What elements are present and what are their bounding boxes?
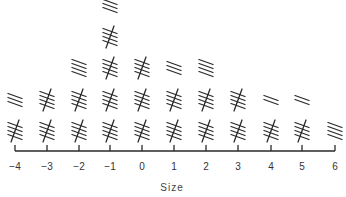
- x-axis-title: Size: [160, 182, 183, 193]
- tally-column--1: [103, 0, 117, 142]
- x-tick-label: 6: [332, 161, 338, 172]
- tally-column--2: [72, 60, 86, 143]
- x-tick-label: 5: [299, 161, 305, 172]
- tally-column-0: [135, 57, 149, 142]
- tally-chart: −4−3−2−10123456 Size: [0, 0, 346, 197]
- x-tick-label: 3: [235, 161, 241, 172]
- x-tick-label: 1: [171, 161, 177, 172]
- tally-column-2: [199, 60, 213, 143]
- tally-column-1: [167, 62, 181, 143]
- tally-column-4: [264, 96, 278, 143]
- tally-column-6: [328, 123, 342, 140]
- x-tick-label: −1: [104, 161, 115, 172]
- x-tick-label: −4: [9, 161, 20, 172]
- tally-column-5: [295, 96, 309, 143]
- x-tick-label: 4: [268, 161, 274, 172]
- tally-column-3: [231, 89, 245, 142]
- x-tick-label: −2: [73, 161, 84, 172]
- x-tick-label: 0: [139, 161, 145, 172]
- x-tick-label: −3: [41, 161, 52, 172]
- x-tick-label: 2: [203, 161, 209, 172]
- tally-column--4: [8, 94, 22, 143]
- tally-column--3: [40, 89, 54, 142]
